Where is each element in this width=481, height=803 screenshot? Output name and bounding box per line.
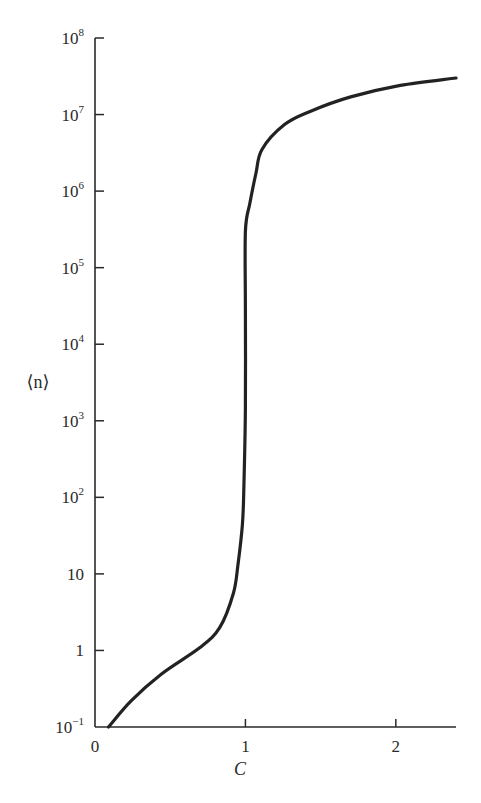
data-curve	[109, 78, 457, 727]
y-tick-label: 1	[76, 641, 85, 660]
y-axis-label: ⟨n⟩	[26, 372, 49, 392]
axes	[95, 38, 456, 727]
x-axis-label: C	[234, 759, 247, 779]
y-tick-label: 10	[67, 565, 84, 584]
x-tick-label: 1	[241, 737, 250, 756]
x-tick-label: 0	[91, 737, 100, 756]
y-tick-label: 106	[62, 179, 85, 201]
y-tick-label: 108	[62, 26, 85, 48]
y-tick-label: 10−1	[55, 715, 84, 737]
y-tick-label: 102	[62, 485, 85, 507]
x-tick-label: 2	[392, 737, 401, 756]
y-ticks: 10−1110102103104105106107108	[55, 26, 104, 737]
x-ticks: 012	[91, 719, 400, 756]
y-tick-label: 104	[62, 332, 85, 354]
chart: 10−1110102103104105106107108 012 C ⟨n⟩	[0, 0, 481, 803]
y-tick-label: 107	[62, 103, 85, 125]
y-tick-label: 105	[62, 256, 85, 278]
y-tick-label: 103	[62, 409, 85, 431]
